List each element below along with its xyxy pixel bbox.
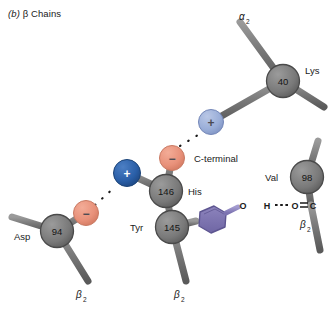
figure-panel-b-beta-chains: (b) β Chains bbox=[0, 0, 328, 313]
label-asp94-name: Asp bbox=[14, 231, 30, 242]
atom-carbonyl-carbon: C bbox=[310, 201, 317, 211]
label-val98-beta2-chain: β bbox=[299, 219, 306, 230]
interaction-salt-bridge-his146-lys40 bbox=[180, 132, 203, 146]
atom-hydroxyl-oxygen: O bbox=[239, 201, 246, 211]
label-tyr145-name: Tyr bbox=[130, 222, 143, 233]
label-his146-name: His bbox=[188, 186, 202, 197]
label-c-terminal: C-terminal bbox=[194, 153, 238, 164]
label-tyr145-beta2-chain: β bbox=[173, 289, 180, 300]
label-val98-beta2-subscript: 2 bbox=[307, 226, 311, 233]
label-asp94-beta2-chain: β bbox=[75, 289, 82, 300]
figure-caption: (b) β Chains bbox=[8, 8, 61, 19]
node-asp94-number: 94 bbox=[52, 226, 63, 237]
label-alpha2-subscript: 2 bbox=[246, 18, 250, 25]
caption-text: β Chains bbox=[23, 8, 61, 19]
hydroxyl-group-tyr145: O H bbox=[239, 201, 270, 211]
molecular-interaction-diagram: 40 Lys α 2 + 146 His − C-termin bbox=[0, 0, 328, 313]
dotted-line-salt-bridge-upper bbox=[180, 132, 203, 146]
interaction-salt-bridge-asp94-positive bbox=[95, 186, 116, 205]
label-tyr145-beta2-subscript: 2 bbox=[181, 296, 185, 303]
node-lys40-number: 40 bbox=[278, 76, 289, 87]
charge-group-positive-free: + bbox=[114, 160, 141, 187]
residue-asp94: 94 Asp − β 2 bbox=[12, 201, 99, 304]
dotted-line-salt-bridge-lower bbox=[95, 186, 116, 205]
residue-tyr145: 145 Tyr β 2 bbox=[130, 206, 238, 303]
charge-his146-negative-sign: − bbox=[168, 152, 175, 166]
residue-val98: 98 Val O C β 2 bbox=[265, 141, 324, 250]
node-his146-number: 146 bbox=[158, 186, 174, 197]
bond-val98-beta2 bbox=[311, 205, 320, 250]
atom-carbonyl-oxygen: O bbox=[291, 201, 298, 211]
label-alpha2-chain: α bbox=[239, 11, 245, 22]
node-tyr145-number: 145 bbox=[164, 222, 180, 233]
residue-lys40: 40 Lys α 2 + bbox=[199, 11, 325, 135]
node-val98-number: 98 bbox=[302, 172, 313, 183]
panel-letter: (b) bbox=[8, 8, 20, 19]
charge-asp94-negative-sign: − bbox=[82, 207, 89, 221]
label-lys40-name: Lys bbox=[305, 65, 320, 76]
charge-lys40-positive-sign: + bbox=[207, 116, 214, 130]
label-asp94-beta2-subscript: 2 bbox=[83, 296, 87, 303]
charge-free-positive-sign: + bbox=[123, 167, 130, 181]
label-val98-name: Val bbox=[265, 172, 278, 183]
bond-ring-hydroxyl-oxygen bbox=[226, 207, 238, 213]
atom-hydroxyl-hydrogen: H bbox=[264, 201, 271, 211]
